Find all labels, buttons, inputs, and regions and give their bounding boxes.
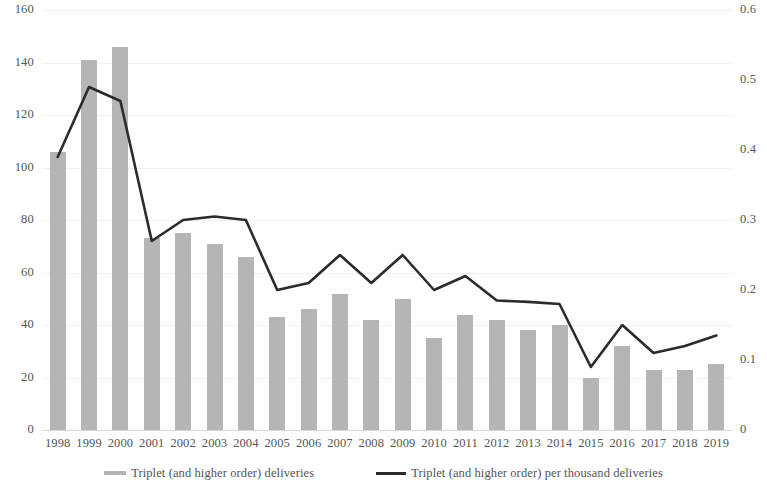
y-axis-right-tick-label: 0: [740, 422, 767, 437]
line-swatch-icon: [376, 472, 406, 475]
y-axis-right-tick-label: 0.1: [740, 352, 767, 367]
legend-label-line-series: Triplet (and higher order) per thousand …: [411, 466, 663, 481]
legend-item-line-series: Triplet (and higher order) per thousand …: [376, 466, 663, 481]
x-axis-tick-label: 2013: [512, 436, 543, 451]
y-axis-right-tick-label: 0.4: [740, 142, 767, 157]
x-axis-tick-label: 1998: [42, 436, 73, 451]
y-axis-left-tick-label: 100: [4, 160, 34, 175]
x-axis-tick-label: 2005: [262, 436, 293, 451]
x-axis-tick-label: 2016: [607, 436, 638, 451]
y-axis-right-tick-label: 0.2: [740, 282, 767, 297]
line-series-layer: [42, 10, 732, 430]
legend-item-bar-series: Triplet (and higher order) deliveries: [104, 466, 314, 481]
y-axis-left-tick-label: 120: [4, 107, 34, 122]
x-axis-tick-label: 2000: [105, 436, 136, 451]
chart-legend: Triplet (and higher order) deliveries Tr…: [0, 462, 767, 484]
axis-baseline: [42, 430, 732, 431]
y-axis-right-tick-label: 0.3: [740, 212, 767, 227]
x-axis-tick-label: 2011: [450, 436, 481, 451]
y-axis-left-tick-label: 0: [4, 422, 34, 437]
y-axis-left-tick-label: 60: [4, 265, 34, 280]
x-axis-tick-label: 2017: [638, 436, 669, 451]
y-axis-right-tick-label: 0.6: [740, 2, 767, 17]
x-axis-tick-label: 2003: [199, 436, 230, 451]
x-axis-tick-label: 2001: [136, 436, 167, 451]
x-axis-tick-label: 2002: [167, 436, 198, 451]
chart-figure: 020406080100120140160 00.10.20.30.40.50.…: [0, 0, 767, 488]
y-axis-left-tick-label: 40: [4, 317, 34, 332]
line-series-path: [58, 87, 717, 367]
x-axis-tick-label: 1999: [73, 436, 104, 451]
x-axis-tick-label: 2004: [230, 436, 261, 451]
x-axis-tick-label: 2012: [481, 436, 512, 451]
y-axis-left-tick-label: 160: [4, 2, 34, 17]
x-axis-tick-label: 2014: [544, 436, 575, 451]
x-axis-tick-label: 2010: [418, 436, 449, 451]
x-axis-tick-label: 2009: [387, 436, 418, 451]
x-axis-tick-label: 2006: [293, 436, 324, 451]
x-axis-tick-label: 2018: [669, 436, 700, 451]
x-axis-tick-label: 2008: [356, 436, 387, 451]
y-axis-left-tick-label: 80: [4, 212, 34, 227]
plot-area: [42, 10, 732, 430]
x-axis-tick-label: 2019: [701, 436, 732, 451]
legend-label-bar-series: Triplet (and higher order) deliveries: [131, 466, 314, 481]
y-axis-left-tick-label: 20: [4, 370, 34, 385]
x-axis-tick-label: 2015: [575, 436, 606, 451]
bar-swatch-icon: [104, 471, 126, 475]
x-axis-tick-label: 2007: [324, 436, 355, 451]
y-axis-left-tick-label: 140: [4, 55, 34, 70]
y-axis-right-tick-label: 0.5: [740, 72, 767, 87]
